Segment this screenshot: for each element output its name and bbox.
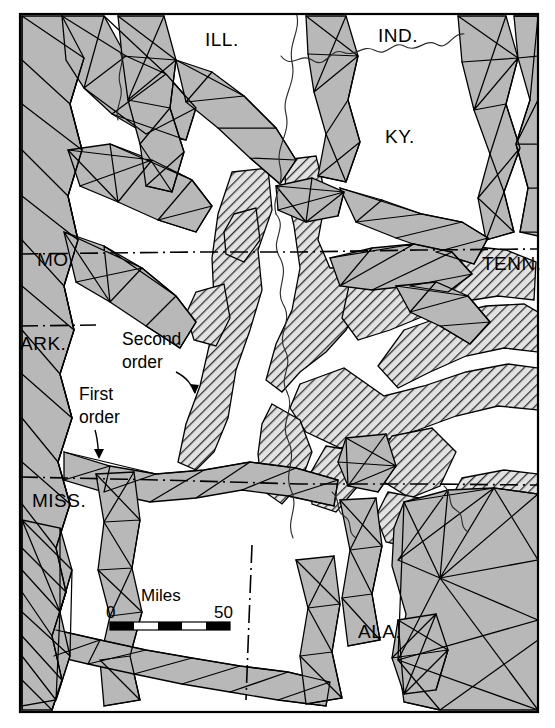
state-label-alabama: ALA. bbox=[358, 621, 401, 642]
map-root: ILL. IND. KY. MO. TENN. ARK. MISS. ALA. … bbox=[0, 0, 555, 728]
map-figure: ILL. IND. KY. MO. TENN. ARK. MISS. ALA. … bbox=[0, 0, 555, 728]
scale-bar-segment bbox=[110, 622, 134, 630]
mo-ark-border bbox=[20, 325, 96, 326]
scale-bar-segment bbox=[206, 622, 230, 630]
first-order-label-line1: First bbox=[79, 384, 113, 404]
state-label-kentucky: KY. bbox=[385, 126, 415, 147]
state-label-missouri: MO. bbox=[37, 249, 74, 270]
scale-bar-caption: Miles bbox=[141, 586, 181, 605]
state-label-tennessee: TENN. bbox=[482, 253, 542, 274]
state-label-arkansas: ARK. bbox=[20, 333, 66, 354]
second-order-label-line2: order bbox=[122, 352, 163, 372]
scale-bar-max-label: 50 bbox=[214, 603, 233, 622]
scale-bar-segment bbox=[158, 622, 182, 630]
second-order-label-line1: Second bbox=[122, 329, 181, 349]
state-label-illinois: ILL. bbox=[205, 29, 239, 50]
first-order-label-line2: order bbox=[79, 407, 120, 427]
state-label-mississippi: MISS. bbox=[32, 490, 86, 511]
state-label-indiana: IND. bbox=[378, 25, 418, 46]
scale-bar-track bbox=[110, 622, 230, 630]
scale-bar-min-label: 0 bbox=[106, 603, 115, 622]
